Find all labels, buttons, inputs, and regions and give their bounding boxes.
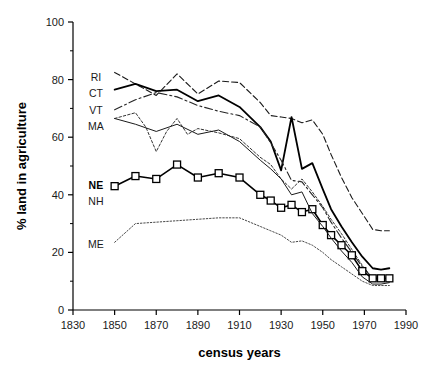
y-tick-label: 100 — [46, 16, 64, 28]
x-tick-label: 1970 — [352, 319, 376, 331]
x-tick-label: 1830 — [61, 319, 85, 331]
y-tick-label: 60 — [52, 131, 64, 143]
series-marker-ne — [348, 252, 355, 259]
series-marker-ne — [174, 161, 181, 168]
series-marker-ne — [386, 275, 393, 282]
y-tick-label: 0 — [58, 304, 64, 316]
series-marker-ne — [319, 222, 326, 229]
x-tick-label: 1870 — [144, 319, 168, 331]
series-marker-ne — [236, 174, 243, 181]
series-label-me: ME — [88, 238, 104, 250]
series-label-ri: RI — [91, 71, 102, 83]
series-label-ne: NE — [89, 179, 104, 191]
y-tick-label: 40 — [52, 189, 64, 201]
x-tick-label: 1890 — [186, 319, 210, 331]
series-ne — [111, 161, 393, 282]
chart-figure: 0204060801001830185018701890191019301950… — [0, 0, 434, 377]
series-label-ma: MA — [88, 120, 104, 132]
series-marker-ne — [215, 170, 222, 177]
x-tick-label: 1850 — [102, 319, 126, 331]
x-axis-title: census years — [198, 345, 280, 360]
series-marker-ne — [288, 201, 295, 208]
series-marker-ne — [194, 174, 201, 181]
line-chart: 0204060801001830185018701890191019301950… — [0, 0, 434, 377]
series-marker-ne — [369, 275, 376, 282]
series-marker-ne — [111, 183, 118, 190]
x-tick-label: 1950 — [311, 319, 335, 331]
y-tick-label: 20 — [52, 246, 64, 258]
series-marker-ne — [257, 191, 264, 198]
series-marker-ne — [278, 204, 285, 211]
series-marker-ne — [298, 209, 305, 216]
x-tick-label: 1990 — [394, 319, 418, 331]
series-marker-ne — [378, 275, 385, 282]
axes-group: 0204060801001830185018701890191019301950… — [46, 16, 419, 331]
x-tick-label: 1910 — [227, 319, 251, 331]
x-tick-label: 1930 — [269, 319, 293, 331]
y-tick-label: 80 — [52, 74, 64, 86]
series-label-nh: NH — [88, 195, 103, 207]
series-marker-ne — [153, 175, 160, 182]
series-marker-ne — [132, 173, 139, 180]
y-axis-title: % land in agriculture — [14, 102, 29, 230]
series-marker-ne — [267, 197, 274, 204]
series-label-vt: VT — [89, 104, 103, 116]
series-label-ct: CT — [89, 87, 104, 99]
